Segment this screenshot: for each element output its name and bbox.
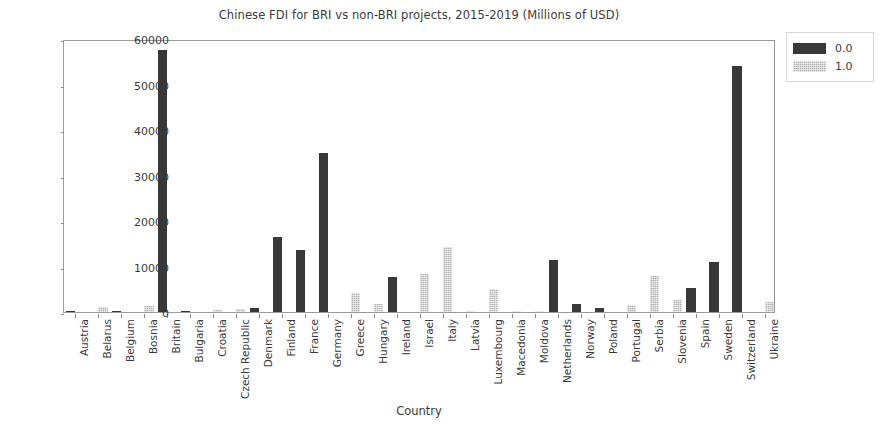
y-axis-tick-mark xyxy=(61,132,65,133)
y-axis-tick-label: 0 xyxy=(109,307,169,320)
x-axis-tick-mark xyxy=(489,314,490,318)
x-axis-tick-label: Ukraine xyxy=(768,319,780,360)
legend-label-series-0: 0.0 xyxy=(835,42,853,55)
legend-item: 1.0 xyxy=(793,57,867,75)
y-axis-tick-label: 20000 xyxy=(109,216,169,229)
bars-layer xyxy=(64,41,774,312)
x-axis-tick-mark xyxy=(397,314,398,318)
x-axis-tick-mark xyxy=(673,314,674,318)
x-axis-tick-label: Greece xyxy=(354,319,366,356)
x-axis-tick-label: Belgium xyxy=(124,319,136,362)
bar xyxy=(319,153,328,312)
bar xyxy=(650,276,659,312)
bar xyxy=(213,310,222,312)
x-axis-tick-label: Spain xyxy=(699,319,711,348)
x-axis-tick-mark xyxy=(650,314,651,318)
x-axis-tick-mark xyxy=(282,314,283,318)
y-axis-tick-label: 10000 xyxy=(109,261,169,274)
x-axis-tick-label: Austria xyxy=(78,319,90,356)
x-axis-title: Country xyxy=(63,404,775,418)
x-axis-tick-mark xyxy=(98,314,99,318)
bar xyxy=(250,308,259,312)
bar xyxy=(236,309,245,312)
x-axis-tick-mark xyxy=(305,314,306,318)
x-axis-tick-label: Italy xyxy=(446,319,458,342)
x-axis-tick-label: Luxembourg xyxy=(492,319,504,384)
x-axis-tick-label: Latvia xyxy=(469,319,481,351)
bar xyxy=(466,311,475,312)
chart-figure: Chinese FDI for BRI vs non-BRI projects,… xyxy=(0,0,887,445)
x-axis-tick-mark xyxy=(581,314,582,318)
x-axis-tick-label: Germany xyxy=(331,319,343,367)
bar xyxy=(709,262,718,312)
y-axis-tick-label: 30000 xyxy=(109,170,169,183)
x-axis-tick-mark xyxy=(190,314,191,318)
x-axis-tick-mark xyxy=(558,314,559,318)
x-axis-tick-mark xyxy=(535,314,536,318)
x-axis-tick-label: Hungary xyxy=(377,319,389,364)
plot-area xyxy=(63,40,775,313)
x-axis-tick-mark xyxy=(328,314,329,318)
y-axis-tick-label: 60000 xyxy=(109,34,169,47)
x-axis-tick-label: Bosnia xyxy=(147,319,159,354)
y-axis-tick-label: 50000 xyxy=(109,79,169,92)
x-axis-tick-mark xyxy=(742,314,743,318)
bar xyxy=(673,300,682,312)
x-axis-tick-label: Macedonia xyxy=(515,319,527,376)
x-axis-tick-label: Slovenia xyxy=(676,319,688,364)
bar xyxy=(627,305,636,312)
y-axis-tick-mark xyxy=(61,87,65,88)
x-axis-tick-mark xyxy=(374,314,375,318)
y-axis-tick-mark xyxy=(61,223,65,224)
x-axis-tick-mark xyxy=(696,314,697,318)
x-axis-tick-mark xyxy=(259,314,260,318)
bar xyxy=(732,66,741,312)
bar xyxy=(351,293,360,312)
x-axis-tick-mark xyxy=(627,314,628,318)
x-axis-tick-mark xyxy=(604,314,605,318)
legend-item: 0.0 xyxy=(793,39,867,57)
bar xyxy=(765,302,774,312)
bar xyxy=(66,311,75,312)
x-axis-tick-mark xyxy=(765,314,766,318)
x-axis-tick-label: Denmark xyxy=(262,319,274,367)
x-axis-tick-mark xyxy=(75,314,76,318)
x-axis-tick-label: Finland xyxy=(285,319,297,357)
legend-swatch-series-1 xyxy=(793,61,826,72)
bar xyxy=(686,288,695,312)
x-axis-tick-label: Poland xyxy=(607,319,619,354)
bar xyxy=(388,277,397,312)
x-axis-tick-label: Czech Republic xyxy=(239,319,251,399)
bar xyxy=(374,304,383,312)
x-axis-tick-mark xyxy=(420,314,421,318)
chart-legend: 0.0 1.0 xyxy=(786,32,874,82)
y-axis-tick-mark xyxy=(61,41,65,42)
x-axis-tick-label: Norway xyxy=(584,319,596,359)
bar xyxy=(595,308,604,312)
bar xyxy=(296,250,305,312)
bar xyxy=(181,311,190,312)
y-axis-tick-mark xyxy=(61,314,65,315)
x-axis-tick-mark xyxy=(351,314,352,318)
x-axis-tick-label: Ireland xyxy=(400,319,412,355)
x-axis-tick-label: Serbia xyxy=(653,319,665,352)
legend-label-series-1: 1.0 xyxy=(835,60,853,73)
x-axis-tick-label: France xyxy=(308,319,320,354)
x-axis-tick-label: Britain xyxy=(170,319,182,354)
bar xyxy=(420,274,429,312)
bar xyxy=(489,289,498,312)
bar xyxy=(512,311,521,312)
chart-title: Chinese FDI for BRI vs non-BRI projects,… xyxy=(63,8,775,22)
bar xyxy=(572,304,581,312)
x-axis-tick-mark xyxy=(512,314,513,318)
x-axis-tick-label: Switzerland xyxy=(745,319,757,380)
x-axis-tick-label: Croatia xyxy=(216,319,228,357)
bar xyxy=(98,307,107,312)
x-axis-tick-label: Sweden xyxy=(722,319,734,361)
x-axis-tick-label: Moldova xyxy=(538,319,550,363)
y-axis-tick-mark xyxy=(61,269,65,270)
x-axis-tick-label: Portugal xyxy=(630,319,642,363)
bar xyxy=(535,311,544,312)
x-axis-tick-mark xyxy=(719,314,720,318)
x-axis-tick-label: Belarus xyxy=(101,319,113,358)
